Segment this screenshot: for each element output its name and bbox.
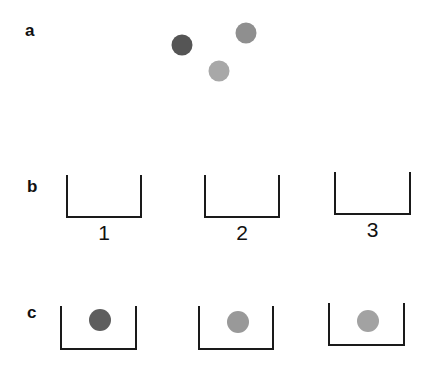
medium-ball [236, 23, 257, 44]
bin-number-label: 2 [236, 221, 248, 244]
panel-c-bins [61, 303, 404, 349]
bin-1 [67, 175, 141, 217]
panel-a-balls [172, 23, 257, 82]
sorted-ball-1 [89, 309, 111, 331]
bin-number-label: 3 [367, 218, 379, 241]
light-ball [209, 61, 230, 82]
bin-number-label: 1 [98, 221, 110, 244]
bin-3 [335, 172, 410, 214]
sorted-ball-3 [357, 310, 379, 332]
panel-b-bins: 123 [67, 172, 410, 244]
dark-ball [172, 35, 193, 56]
bin-2 [205, 175, 279, 217]
diagram-canvas: 123 [0, 0, 437, 371]
sorted-ball-2 [227, 311, 249, 333]
